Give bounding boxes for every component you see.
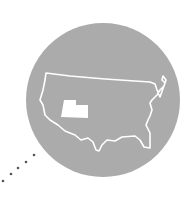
dotted-connector <box>2 154 36 183</box>
map-illustration <box>0 0 194 199</box>
map-circle-background <box>26 23 180 177</box>
